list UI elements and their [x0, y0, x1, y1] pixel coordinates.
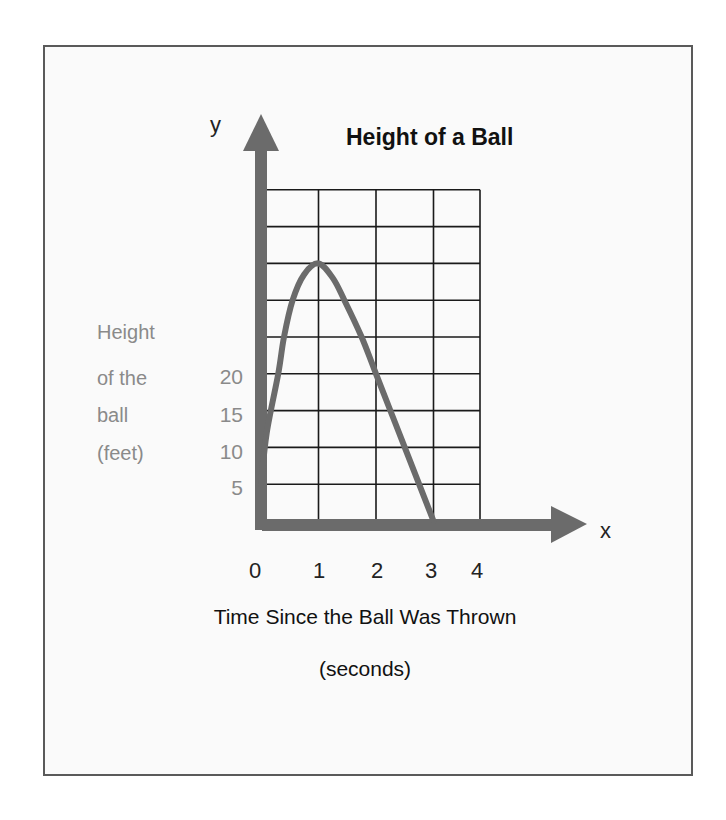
x-tick-2: 2: [362, 558, 392, 584]
y-tick-10: 10: [203, 440, 243, 464]
x-axis-shaft: [262, 519, 554, 531]
grid-lines: [266, 190, 480, 521]
x-axis-arrow-icon: [551, 506, 587, 543]
y-tick-15: 15: [203, 403, 243, 427]
chart-title: Height of a Ball: [346, 124, 513, 151]
x-tick-3: 3: [416, 558, 446, 584]
y-label-line-3: ball: [97, 405, 128, 425]
y-tick-5: 5: [203, 476, 243, 500]
y-label-line-4: (feet): [97, 443, 144, 463]
y-tick-20: 20: [203, 365, 243, 389]
x-axis-label-line-1: Time Since the Ball Was Thrown: [115, 605, 615, 629]
x-axis-letter: x: [600, 518, 611, 544]
height-curve: [261, 263, 434, 521]
x-tick-1: 1: [304, 558, 334, 584]
y-label-line-1: Height: [97, 322, 155, 342]
x-tick-4: 4: [462, 558, 492, 584]
y-axis-letter: y: [210, 112, 221, 138]
y-label-line-2: of the: [97, 368, 147, 388]
x-axis-label-line-2: (seconds): [115, 657, 615, 681]
x-tick-0: 0: [240, 558, 270, 584]
y-axis-arrow-icon: [243, 114, 279, 151]
